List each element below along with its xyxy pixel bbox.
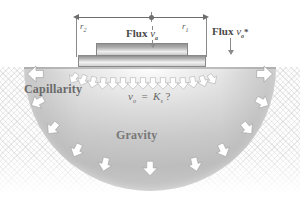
capillarity-arrow-left: [27, 66, 43, 82]
infiltration-arrow-row: [66, 71, 220, 90]
left-flank-arrows: [28, 93, 113, 173]
flow-arrows: [0, 0, 300, 207]
gravity-arrow-center: [143, 161, 158, 175]
capillarity-arrow-right: [257, 66, 273, 82]
figure-canvas: r2 r1 Flux va Flux vo* Capillarity Gravi…: [0, 0, 300, 207]
right-flank-arrows: [187, 93, 272, 173]
